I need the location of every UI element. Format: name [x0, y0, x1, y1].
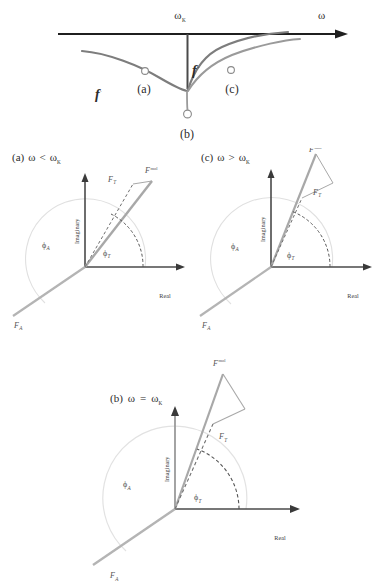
label-point-c: (c): [225, 82, 238, 96]
phasor-panel-a: (a)ω<ωK Real Imaginary Fmol FT FA ϕA ϕT: [0, 148, 196, 333]
marker-point-c: [228, 67, 235, 74]
panel-a-phi-t-label: ϕT: [103, 249, 112, 259]
panel-c-phi-a-label: ϕA: [231, 242, 240, 252]
omega-axis-label: ω: [318, 9, 325, 21]
panel-c-ft-label: FT: [312, 188, 322, 198]
marker-point-b: [184, 110, 192, 118]
panel-b-triangle-edge-bottom: [213, 409, 245, 424]
panel-b-vector-fmol: [175, 374, 223, 509]
panel-c-fmol-label-text: Fmol: [308, 148, 322, 154]
panel-b-imaginary-label: Imaginary: [163, 456, 170, 482]
panel-a-ft-label: FT: [107, 175, 117, 185]
panel-b-real-label: Real: [274, 534, 286, 541]
omega-axis-arrowhead: [335, 30, 348, 39]
marker-point-a: [142, 68, 149, 75]
f-prime-label: f′: [95, 87, 102, 102]
omega-k-label: ωK: [174, 9, 186, 23]
marker-b-stem: [187, 91, 188, 110]
panel-b-triangle-edge-right: [223, 374, 245, 409]
panel-b-real-arrowhead: [290, 505, 300, 513]
phasor-panel-c: (c)ω>ωK Real Imaginary Fmol FT FA ϕA ϕT: [193, 148, 389, 333]
panel-a-title: (a)ω<ωK: [12, 151, 61, 165]
panel-c-phi-t-label: ϕT: [287, 251, 296, 261]
panel-b-fa-label: FA: [109, 571, 119, 582]
panel-c-vector-fa: [200, 267, 271, 316]
label-point-a: (a): [137, 82, 150, 96]
panel-a-real-label: Real: [159, 292, 171, 299]
panel-c-imaginary-arrowhead: [268, 169, 275, 178]
panel-c-triangle-edge-right: [316, 154, 333, 183]
figure-root: ωK ω f′ f″ (a) (b) (c) (a)ω<ωK Real Imag…: [0, 0, 389, 585]
panel-c-imaginary-label: Imaginary: [259, 216, 266, 242]
panel-c-title: (c)ω>ωK: [201, 151, 250, 165]
panel-a-imaginary-arrowhead: [82, 173, 89, 182]
panel-a-fa-label: FA: [13, 321, 23, 331]
panel-c-real-label: Real: [347, 292, 359, 299]
phasor-panel-b: (b)ω=ωK Real Imaginary Fmol FT FA ϕA ϕT: [58, 352, 338, 585]
panel-a-vector-fa: [13, 267, 85, 316]
panel-a-real-arrowhead: [176, 264, 185, 271]
panel-a-fmol-label: Fmol: [144, 166, 158, 176]
panel-b-phi-t-label: ϕT: [194, 493, 203, 504]
panel-c-fa-label: FA: [201, 321, 211, 331]
f-double-prime-label: f″: [192, 63, 199, 78]
panel-b-fmol-label: Fmol: [212, 358, 226, 368]
f-double-prime-curve-lower: [188, 39, 300, 91]
panel-c-real-arrowhead: [363, 264, 372, 271]
panel-b-imaginary-arrowhead: [171, 406, 179, 416]
panel-a-imaginary-label: Imaginary: [73, 218, 80, 244]
panel-a-phi-a-label: ϕA: [42, 241, 51, 251]
panel-a-phi-t-arc: [111, 214, 143, 267]
panel-c-phi-t-arc: [291, 211, 330, 267]
label-point-b: (b): [180, 127, 194, 141]
panel-b-title: (b)ω=ωK: [110, 392, 163, 406]
panel-b-phi-a-label: ϕA: [123, 480, 132, 491]
dispersion-diagram: ωK ω f′ f″ (a) (b) (c): [0, 0, 389, 150]
f-prime-curve: [82, 51, 187, 91]
panel-b-phi-t-arc: [197, 449, 239, 509]
